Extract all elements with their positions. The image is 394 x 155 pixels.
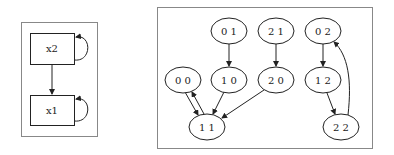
node-label: 2 1: [268, 26, 284, 37]
node-label: x2: [46, 43, 58, 54]
node-label: 0 0: [175, 75, 191, 86]
node-11: 1 1: [189, 114, 225, 140]
node-label: 2 2: [333, 122, 349, 133]
node-label: 1 0: [221, 75, 237, 86]
node-12: 1 2: [305, 67, 341, 93]
node-21: 2 1: [258, 18, 294, 44]
node-label: 0 2: [315, 26, 331, 37]
left-graph-panel: x2 x1: [22, 23, 98, 137]
node-00: 0 0: [165, 67, 201, 93]
node-label: 1 2: [315, 75, 331, 86]
node-label: 2 0: [268, 75, 284, 86]
node-x1: x1: [31, 96, 75, 126]
edge-12-22: [327, 93, 335, 114]
edge-11-00: [192, 92, 204, 114]
node-22: 2 2: [323, 114, 359, 140]
edge-20-11: [222, 90, 264, 118]
edge-00-11: [185, 92, 198, 115]
node-10: 1 0: [211, 67, 247, 93]
node-x2: x2: [31, 34, 75, 65]
node-01: 0 1: [211, 18, 247, 44]
edge-x1-self-loop: [75, 99, 88, 121]
right-graph-panel: 0 1 2 1 0 2 0 0 1 0 2 0 1 2 1 1: [158, 8, 373, 149]
node-20: 2 0: [258, 67, 294, 93]
node-label: x1: [46, 105, 58, 116]
node-label: 0 1: [221, 26, 237, 37]
edge-10-11: [213, 92, 224, 114]
node-label: 1 1: [199, 122, 215, 133]
state-graph-diagram: x2 x1 0 1 2 1: [0, 0, 394, 155]
edge-x2-self-loop: [75, 37, 88, 60]
node-02: 0 2: [305, 18, 341, 44]
